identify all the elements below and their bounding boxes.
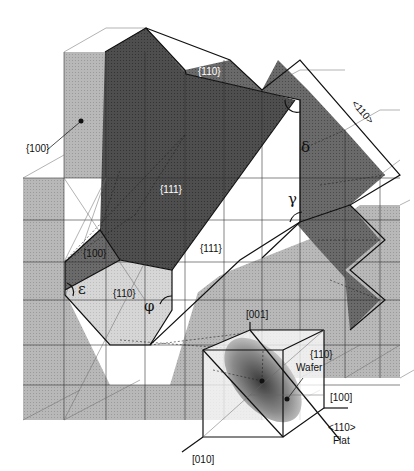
angle-gamma: γ — [288, 190, 297, 208]
inset-wafer-label-2: Wafer — [296, 362, 323, 373]
inset-flat-label-1: <110> — [328, 422, 356, 433]
angle-delta: δ — [301, 138, 310, 156]
angle-epsilon: ε — [78, 280, 86, 298]
label-plane-100-outer: {100} — [26, 143, 50, 154]
label-plane-100-inner: {100} — [83, 248, 107, 259]
crystal-etch-diagram: {100} {110} {111} {100} {111} {110} <110… — [0, 0, 414, 471]
inset-flat-label-2: Flat — [333, 435, 350, 446]
label-plane-111-top: {111} — [160, 184, 183, 195]
inset-axis-100: [100] — [330, 392, 352, 403]
inset-wafer-label-1: {110} — [310, 349, 333, 360]
label-plane-110-top: {110} — [198, 66, 221, 77]
inset-axis-010: [010] — [192, 454, 214, 465]
label-plane-111-side: {111} — [200, 243, 223, 254]
angle-phi: φ — [144, 297, 155, 315]
label-plane-110-floor: {110} — [113, 288, 136, 299]
inset-axis-001: [001] — [246, 309, 268, 320]
